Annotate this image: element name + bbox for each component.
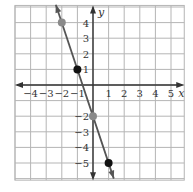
data-point <box>58 19 66 27</box>
data-point <box>105 159 113 167</box>
x-tick-label: −2 <box>54 88 69 99</box>
tick-labels: −4−3−2−1123454321−2−3−4−5xy <box>23 6 185 169</box>
x-tick-label: −1 <box>70 88 85 99</box>
y-tick-label: −4 <box>74 142 89 153</box>
y-tick-label: 4 <box>83 18 89 29</box>
y-axis-label: y <box>97 6 105 19</box>
data-point <box>89 112 97 120</box>
y-tick-label: 2 <box>83 49 89 60</box>
x-tick-label: −3 <box>39 88 54 99</box>
x-tick-label: 4 <box>152 88 158 99</box>
y-tick-label: −2 <box>74 111 89 122</box>
x-axis-label: x <box>178 87 185 100</box>
x-tick-label: 3 <box>137 88 143 99</box>
x-tick-label: 1 <box>105 88 111 99</box>
y-tick-label: 1 <box>83 64 89 75</box>
x-tick-label: 2 <box>121 88 127 99</box>
y-tick-label: 3 <box>83 33 89 44</box>
x-tick-label: −4 <box>23 88 38 99</box>
data-point <box>73 65 81 73</box>
y-tick-label: −3 <box>74 127 89 138</box>
x-tick-label: 5 <box>168 88 174 99</box>
x-axis-left-arrow-icon <box>15 82 23 88</box>
coordinate-plane: −4−3−2−1123454321−2−3−4−5xy <box>0 0 193 192</box>
y-tick-label: −5 <box>74 158 89 169</box>
line-end-arrow-icon <box>108 170 114 179</box>
line-start-arrow-icon <box>56 5 62 14</box>
